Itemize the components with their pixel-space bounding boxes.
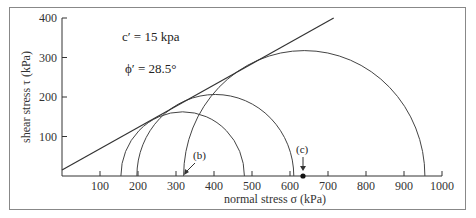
arrow-c-head xyxy=(300,166,306,171)
x-tick-label: 1000 xyxy=(430,179,454,193)
arrow-b-line xyxy=(186,163,195,172)
y-tick-label: 300 xyxy=(39,51,57,65)
friction-angle-annotation: ϕ′ = 28.5° xyxy=(125,61,176,76)
y-tick-label: 200 xyxy=(39,90,57,104)
x-tick-label: 700 xyxy=(319,179,337,193)
x-tick-label: 300 xyxy=(167,179,185,193)
x-tick-label: 900 xyxy=(395,179,413,193)
axes xyxy=(62,18,442,176)
x-tick-label: 200 xyxy=(129,179,147,193)
y-tick-label: 100 xyxy=(39,130,57,144)
failure-envelope-line xyxy=(62,18,334,170)
mohr-circle xyxy=(137,94,294,176)
x-tick-label: 800 xyxy=(357,179,375,193)
y-axis-title: shear stress τ (kPa) xyxy=(19,51,33,143)
cohesion-annotation: c′ = 15 kpa xyxy=(122,29,180,44)
label-b: (b) xyxy=(193,149,206,162)
x-tick-label: 100 xyxy=(91,179,109,193)
x-ticks: 1002003004005006007008009001000 xyxy=(91,171,454,193)
x-tick-label: 400 xyxy=(205,179,223,193)
label-c: (c) xyxy=(296,143,309,156)
x-tick-label: 500 xyxy=(243,179,261,193)
y-tick-label: 400 xyxy=(39,11,57,25)
mohr-circle xyxy=(121,112,244,176)
x-tick-label: 600 xyxy=(281,179,299,193)
mohr-circle xyxy=(184,51,425,176)
mohr-circle-chart: 1002003004005006007008009001000 10020030… xyxy=(0,0,476,218)
x-axis-title: normal stress σ (kPa) xyxy=(224,192,326,206)
point-c-marker xyxy=(300,173,305,178)
y-ticks: 100200300400 xyxy=(39,11,67,144)
